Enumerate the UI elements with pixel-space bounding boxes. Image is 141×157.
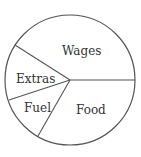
slice-label-food: Food (76, 103, 106, 117)
pie-chart: Wages Extras Fuel Food (0, 0, 141, 157)
slice-label-extras: Extras (16, 72, 55, 86)
slice-label-fuel: Fuel (24, 101, 51, 115)
slice-label-wages: Wages (62, 44, 101, 58)
